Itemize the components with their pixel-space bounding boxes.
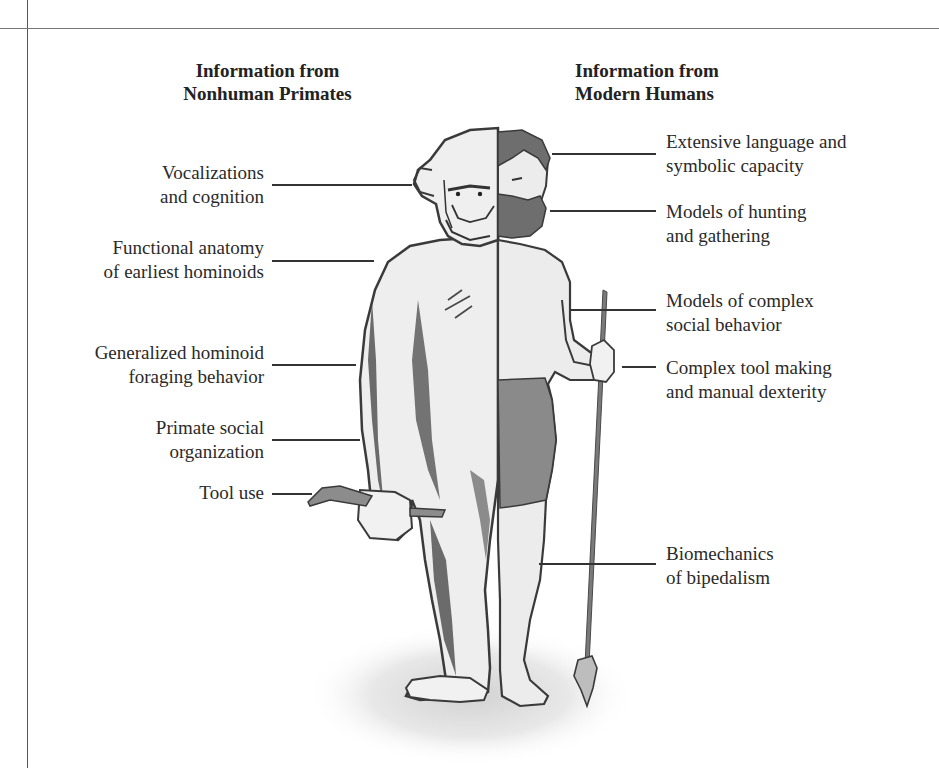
leader-line-social-behavior xyxy=(570,309,656,311)
label-line: Complex tool making xyxy=(666,356,832,380)
label-line: of earliest hominoids xyxy=(104,260,264,284)
leader-line-vocalizations xyxy=(272,184,412,186)
label-line: organization xyxy=(156,440,264,464)
leader-line-hunting xyxy=(550,210,656,212)
label-line: Primate social xyxy=(156,416,264,440)
label-complex-social-behavior: Models of complex social behavior xyxy=(666,289,814,337)
leader-line-tool-use xyxy=(272,493,312,495)
leader-line-functional-anatomy xyxy=(272,260,374,262)
label-line: and gathering xyxy=(666,224,806,248)
label-line: and cognition xyxy=(160,185,264,209)
label-hunting-gathering: Models of hunting and gathering xyxy=(666,200,806,248)
label-line: Models of complex xyxy=(666,289,814,313)
label-line: Vocalizations xyxy=(160,161,264,185)
leader-line-language xyxy=(552,153,656,155)
label-line: Extensive language and xyxy=(666,130,846,154)
label-tool-use: Tool use xyxy=(199,481,264,505)
human-half xyxy=(498,130,614,706)
label-vocalizations-cognition: Vocalizations and cognition xyxy=(160,161,264,209)
label-complex-tool-making: Complex tool making and manual dexterity xyxy=(666,356,832,404)
label-line: Tool use xyxy=(199,481,264,505)
label-extensive-language: Extensive language and symbolic capacity xyxy=(666,130,846,178)
leader-line-bipedalism xyxy=(539,563,656,565)
label-line: Biomechanics xyxy=(666,542,774,566)
label-line: of bipedalism xyxy=(666,566,774,590)
label-line: Generalized hominoid xyxy=(95,341,264,365)
label-biomechanics-bipedalism: Biomechanics of bipedalism xyxy=(666,542,774,590)
label-line: and manual dexterity xyxy=(666,380,832,404)
label-functional-anatomy: Functional anatomy of earliest hominoids xyxy=(104,236,264,284)
leader-line-foraging xyxy=(272,364,356,366)
label-line: Models of hunting xyxy=(666,200,806,224)
leader-line-tool-making xyxy=(622,366,656,368)
label-primate-social-organization: Primate social organization xyxy=(156,416,264,464)
label-foraging-behavior: Generalized hominoid foraging behavior xyxy=(95,341,264,389)
label-line: Functional anatomy xyxy=(104,236,264,260)
chimpanzee-half xyxy=(308,128,498,702)
label-line: social behavior xyxy=(666,313,814,337)
leader-line-social-organization xyxy=(272,439,360,441)
label-line: symbolic capacity xyxy=(666,154,846,178)
label-line: foraging behavior xyxy=(95,365,264,389)
